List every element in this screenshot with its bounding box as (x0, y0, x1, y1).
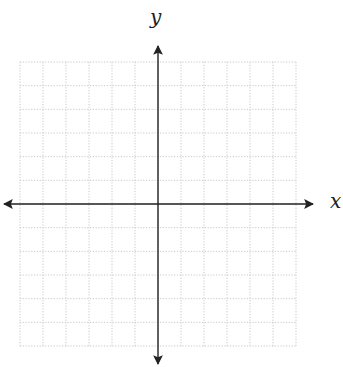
x-axis-label: x (330, 191, 341, 211)
coordinate-plane-svg (0, 0, 343, 367)
y-axis-label: y (150, 7, 161, 27)
